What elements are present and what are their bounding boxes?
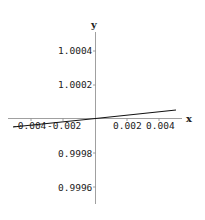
y-tick-label: 0.9996	[58, 182, 93, 193]
y-tick-label: 0.9998	[58, 148, 93, 159]
x-tick-label: 0.002	[113, 120, 142, 131]
y-tick-label: 1.0004	[58, 45, 93, 56]
y-tick-label: 1.0002	[58, 79, 92, 90]
x-axis-label: x	[186, 113, 193, 124]
y-axis-label: y	[90, 19, 98, 30]
x-tick-label: 0.004	[146, 120, 175, 131]
plot: x y 1.0004 1.0002 0.9998 0.9996 -0.004 -…	[0, 0, 205, 220]
